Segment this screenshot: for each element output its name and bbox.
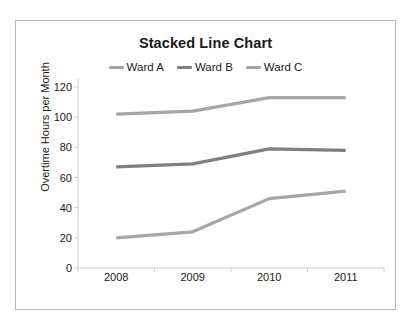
chart-frame: Stacked Line Chart Ward A Ward B Ward C … <box>15 20 396 310</box>
plot-area: Overtime Hours per Month 020406080100120… <box>16 21 397 309</box>
series-line-ward-b <box>116 149 346 167</box>
line-chart-svg <box>16 21 397 309</box>
series-line-ward-c <box>116 98 346 115</box>
series-line-ward-a <box>116 191 346 238</box>
